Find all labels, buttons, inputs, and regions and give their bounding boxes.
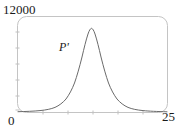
- plot-frame: [18, 17, 168, 113]
- plot-area: [0, 0, 183, 139]
- y-axis-max-label: 12000: [3, 3, 36, 16]
- curve-annotation-label: P': [59, 41, 69, 53]
- x-axis-max-label: 25: [162, 110, 175, 123]
- x-axis-min-label: 0: [8, 114, 15, 127]
- chart-figure: 12000 0 25 P': [0, 0, 183, 139]
- curve-p-prime: [18, 28, 167, 112]
